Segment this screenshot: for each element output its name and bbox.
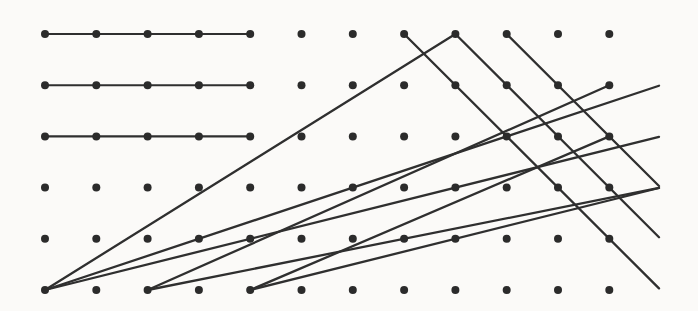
lattice-dot-c11-r5 [605,286,613,294]
lattice-dot-c6-r2 [349,132,357,140]
lattice-dot-c1-r3 [92,184,100,192]
lattice-dot-c7-r4 [400,235,408,243]
lattice-dot-c10-r2 [554,132,562,140]
lattice-dot-c6-r1 [349,81,357,89]
lattice-dot-c7-r2 [400,132,408,140]
lattice-dot-c9-r4 [503,235,511,243]
lattice-dot-c10-r4 [554,235,562,243]
lattice-dot-c8-r0 [451,30,459,38]
lattice-dot-c2-r3 [144,184,152,192]
lattice-dot-c10-r5 [554,286,562,294]
lattice-dot-c0-r2 [41,132,49,140]
lattice-dot-c10-r3 [554,184,562,192]
lattice-dot-c2-r5 [144,286,152,294]
lattice-dot-c11-r3 [605,184,613,192]
lattice-dot-c5-r1 [298,81,306,89]
lattice-dot-c0-r0 [41,30,49,38]
lattice-dot-c9-r1 [503,81,511,89]
lattice-dot-c1-r4 [92,235,100,243]
lattice-dot-c3-r5 [195,286,203,294]
lattice-dot-c3-r2 [195,132,203,140]
lattice-dot-c11-r0 [605,30,613,38]
lattice-dot-c1-r0 [92,30,100,38]
lattice-dot-c8-r3 [451,184,459,192]
lattice-dot-c6-r4 [349,235,357,243]
lattice-dot-c6-r5 [349,286,357,294]
lattice-dot-c0-r5 [41,286,49,294]
lattice-dot-c4-r3 [246,184,254,192]
lattice-dot-c0-r4 [41,235,49,243]
lattice-dot-c0-r1 [41,81,49,89]
lattice-dot-c4-r4 [246,235,254,243]
lattice-dot-c4-r2 [246,132,254,140]
lattice-dot-c3-r4 [195,235,203,243]
lattice-dot-c5-r4 [298,235,306,243]
lattice-dot-c9-r2 [503,132,511,140]
lattice-dot-c8-r2 [451,132,459,140]
lattice-figure [0,0,698,311]
lattice-dot-c8-r4 [451,235,459,243]
lattice-dot-c7-r3 [400,184,408,192]
lattice-dot-c6-r3 [349,184,357,192]
lattice-diagram-canvas [0,0,698,311]
lattice-dot-c2-r1 [144,81,152,89]
lattice-dot-c1-r2 [92,132,100,140]
lattice-dot-c9-r3 [503,184,511,192]
lattice-dot-c5-r2 [298,132,306,140]
lattice-dot-c3-r0 [195,30,203,38]
lattice-dot-c11-r2 [605,132,613,140]
lattice-dot-c10-r0 [554,30,562,38]
lattice-dot-c9-r5 [503,286,511,294]
lattice-dot-c2-r0 [144,30,152,38]
lattice-dot-c3-r1 [195,81,203,89]
lattice-dot-c9-r0 [503,30,511,38]
lattice-dot-c5-r3 [298,184,306,192]
lattice-dot-c2-r2 [144,132,152,140]
lattice-dot-c5-r5 [298,286,306,294]
lattice-dot-c4-r1 [246,81,254,89]
lattice-dot-c5-r0 [298,30,306,38]
lattice-dot-c7-r5 [400,286,408,294]
lattice-dot-c7-r0 [400,30,408,38]
lattice-dot-c10-r1 [554,81,562,89]
lattice-dot-c0-r3 [41,184,49,192]
lattice-dot-c8-r1 [451,81,459,89]
lattice-dot-c11-r4 [605,235,613,243]
lattice-dot-c8-r5 [451,286,459,294]
lattice-dot-c3-r3 [195,184,203,192]
lattice-dot-c1-r1 [92,81,100,89]
lattice-dot-c4-r5 [246,286,254,294]
lattice-dot-c11-r1 [605,81,613,89]
lattice-dot-c1-r5 [92,286,100,294]
lattice-dot-c7-r1 [400,81,408,89]
lattice-dot-c6-r0 [349,30,357,38]
lattice-dot-c4-r0 [246,30,254,38]
lattice-dot-c2-r4 [144,235,152,243]
